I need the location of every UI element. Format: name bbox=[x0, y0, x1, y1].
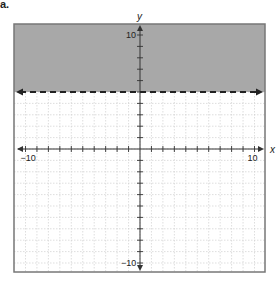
y-max-label: 10 bbox=[126, 30, 136, 40]
x-axis-label: x bbox=[269, 144, 276, 155]
x-max-label: 10 bbox=[248, 153, 258, 163]
x-axis-arrow-left-icon bbox=[17, 146, 23, 152]
coordinate-graph: x y −10 10 10 −10 bbox=[0, 0, 280, 284]
y-min-label: −10 bbox=[121, 258, 136, 268]
x-min-label: −10 bbox=[21, 153, 36, 163]
y-axis-label: y bbox=[136, 11, 143, 22]
y-axis-arrow-down-icon bbox=[137, 265, 143, 271]
x-axis-arrow-right-icon bbox=[258, 146, 264, 152]
